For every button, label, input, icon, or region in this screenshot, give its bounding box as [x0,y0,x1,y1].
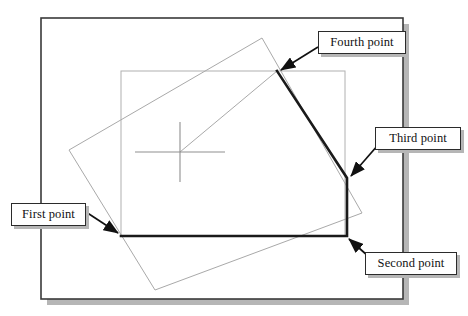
callout-second-point: Second point [365,252,457,275]
drawing-window-frame [41,18,403,299]
callout-fourth-point: Fourth point [318,31,406,54]
callout-third-point-label: Third point [389,132,447,145]
cad-diagram-figure: Fourth point Third point First point Sec… [0,0,468,316]
callout-fourth-point-label: Fourth point [330,36,393,49]
callout-second-point-label: Second point [378,257,445,270]
callout-first-point: First point [11,203,86,226]
callout-third-point: Third point [375,127,461,150]
callout-first-point-label: First point [22,208,75,221]
